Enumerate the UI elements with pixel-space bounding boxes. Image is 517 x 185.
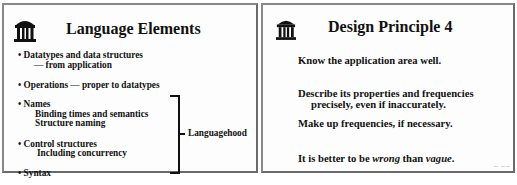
know-application-line: Know the application area well. <box>298 55 441 67</box>
bullet-names: • Names <box>18 99 50 109</box>
bullet-operations: • Operations — proper to datatypes <box>18 80 160 90</box>
precisely-line: precisely, even if inaccurately. <box>311 99 446 111</box>
bullet-datatypes: • Datatypes and data structures <box>18 50 143 60</box>
bullet-syntax: • Syntax <box>18 168 51 178</box>
footer-caption-right <box>363 178 403 185</box>
bracket-tick <box>180 133 185 135</box>
slide-title: Design Principle 4 <box>328 18 452 36</box>
corner-mark: — —— <box>494 163 511 168</box>
languagehood-label: Languagehood <box>188 128 247 138</box>
sub-structure-naming: Structure naming <box>35 118 105 128</box>
sub-concurrency: Including concurrency <box>37 148 127 158</box>
better-wrong-than-vague-line: It is better to be wrong than vague. <box>298 153 454 165</box>
text-part: It is better to be <box>298 153 372 164</box>
old-well-icon <box>276 17 296 41</box>
text-part: . <box>452 153 455 164</box>
sub-from-application: — from application <box>34 60 112 70</box>
make-up-frequencies-line: Make up frequencies, if necessary. <box>298 118 453 130</box>
slide-title: Language Elements <box>66 20 201 38</box>
slide-design-principle-4: Design Principle 4 Know the application … <box>261 3 515 173</box>
curly-bracket <box>170 95 180 174</box>
old-well-icon <box>14 17 36 43</box>
emphasis-vague: vague <box>426 153 452 164</box>
text-part: than <box>400 153 426 164</box>
footer-caption-left <box>108 178 148 185</box>
slide-language-elements: Language Elements • Datatypes and data s… <box>2 3 258 173</box>
emphasis-wrong: wrong <box>372 153 400 164</box>
